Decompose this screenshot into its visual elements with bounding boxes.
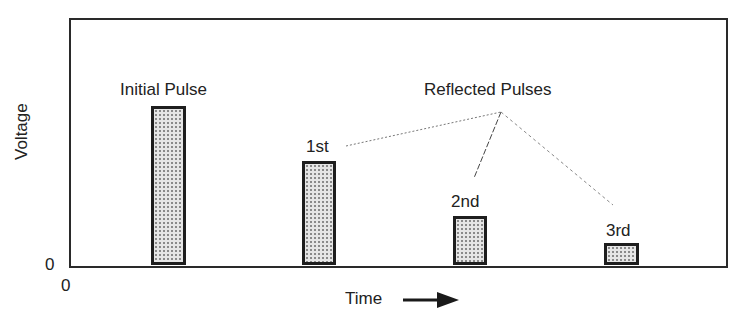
label-2nd: 2nd [451,192,479,212]
leader-lines [0,0,749,330]
y-axis-label: Voltage [12,103,32,160]
label-reflected-pulses: Reflected Pulses [424,80,552,100]
label-1st: 1st [306,137,329,157]
arrow-right-icon [403,292,459,308]
label-initial-pulse: Initial Pulse [120,80,207,100]
x-zero-label: 0 [61,276,70,296]
x-axis-label: Time [345,289,382,309]
label-3rd: 3rd [606,221,631,241]
y-zero-label: 0 [45,255,54,275]
